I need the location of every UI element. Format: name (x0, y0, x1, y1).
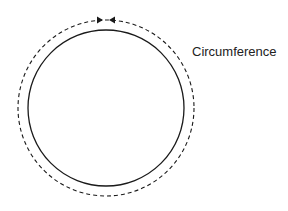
arrowhead-left-icon (109, 17, 115, 24)
dashed-circumference-path (18, 20, 194, 196)
arrowhead-right-icon (97, 17, 103, 24)
circumference-label: Circumference (192, 44, 277, 59)
solid-circle (28, 30, 184, 186)
circumference-diagram: Circumference (0, 0, 288, 211)
